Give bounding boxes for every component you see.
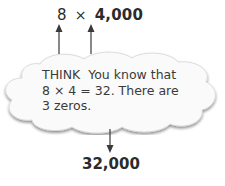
think-bubble-text: THINK You know that 8 × 4 = 32. There ar…: [42, 67, 192, 114]
think-line-1: THINK You know that: [42, 67, 192, 83]
product-result: 32,000: [82, 155, 140, 173]
think-line-3: 3 zeros.: [42, 98, 192, 114]
arrow-up-icon: [54, 24, 64, 54]
times-operator: ×: [75, 7, 87, 23]
factor-one: 8: [57, 6, 67, 24]
think-line-2: 8 × 4 = 32. There are: [42, 83, 192, 99]
factor-two: 4,000: [95, 6, 143, 24]
multiplication-expression: 8 × 4,000: [57, 6, 143, 24]
arrow-down-icon: [105, 129, 115, 153]
arrow-up-icon: [86, 24, 96, 54]
